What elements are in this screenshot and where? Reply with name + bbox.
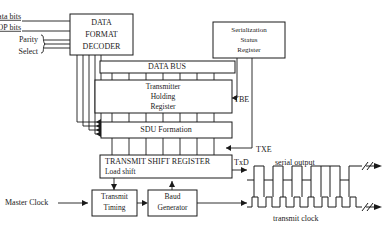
block-transmit-shift-register[interactable]: TRANSMIT SHIFT REGISTER Load shift bbox=[100, 155, 232, 178]
arrow-baud-tsr bbox=[169, 181, 175, 187]
transmit-clock-waveform bbox=[247, 197, 378, 211]
serial-output-trace bbox=[247, 166, 362, 180]
transmit-timing-line1: Transmit bbox=[101, 192, 129, 201]
label-stop-bits: #STOP bits bbox=[0, 23, 21, 32]
serial-output-waveform bbox=[247, 162, 378, 197]
block-data-bus[interactable]: DATA BUS bbox=[100, 61, 235, 73]
ssr-line1: Serialization bbox=[231, 26, 267, 34]
arrow-tsr-timing bbox=[111, 184, 117, 190]
block-serialization-status-register[interactable]: Serialization Status Register bbox=[213, 22, 285, 58]
arrow-txd bbox=[241, 167, 247, 173]
label-txd: TxD bbox=[234, 158, 249, 167]
transmit-timing-line2: Timing bbox=[104, 203, 126, 212]
block-transmitter-holding-register[interactable]: Transmitter Holding Register bbox=[95, 80, 232, 113]
transmit-clock-trace bbox=[247, 197, 362, 207]
thr-line1: Transmitter bbox=[146, 82, 181, 91]
label-data-bits: #Data bits bbox=[0, 12, 21, 21]
data-format-decoder-line2: FORMAT bbox=[85, 30, 118, 39]
label-select: Select bbox=[18, 47, 38, 56]
ssr-line2: Status bbox=[240, 36, 257, 44]
baud-generator-line1: Baud bbox=[165, 192, 181, 201]
arrow-serial-output-continue bbox=[374, 163, 382, 169]
data-format-decoder-line1: DATA bbox=[91, 18, 112, 27]
tsr-line1: TRANSMIT SHIFT REGISTER bbox=[105, 157, 211, 166]
block-sdu-formation[interactable]: SDU Formation bbox=[101, 122, 232, 138]
label-parity: Parity bbox=[19, 35, 38, 44]
thr-line3: Register bbox=[151, 102, 176, 111]
label-master-clock: Master Clock bbox=[5, 198, 48, 207]
label-tbe: TBE bbox=[234, 95, 249, 104]
diagram-canvas: DATA FORMAT DECODER Serialization Status… bbox=[0, 0, 384, 229]
label-txe: TXE bbox=[256, 145, 272, 154]
label-serial-output: serial output bbox=[275, 158, 316, 167]
arrow-txe bbox=[226, 145, 231, 151]
data-bus-label: DATA BUS bbox=[148, 62, 186, 71]
ssr-line3: Register bbox=[237, 46, 261, 54]
data-format-decoder-line3: DECODER bbox=[83, 42, 121, 51]
tsr-line2: Load shift bbox=[105, 167, 137, 176]
uart-transmitter-diagram: DATA FORMAT DECODER Serialization Status… bbox=[0, 0, 384, 229]
baud-generator-line2: Generator bbox=[158, 203, 188, 212]
label-transmit-clock: transmit clock bbox=[273, 214, 319, 223]
thr-line2: Holding bbox=[151, 92, 176, 101]
arrow-sdu-in-3 bbox=[96, 131, 101, 137]
parity-select-brace bbox=[41, 35, 45, 53]
block-data-format-decoder[interactable]: DATA FORMAT DECODER bbox=[70, 14, 133, 55]
arrow-timing-baud bbox=[142, 200, 148, 206]
arrow-transmit-clock-continue bbox=[374, 204, 382, 210]
arrow-clock-out bbox=[241, 200, 247, 206]
block-transmit-timing[interactable]: Transmit Timing bbox=[92, 190, 137, 216]
block-baud-generator[interactable]: Baud Generator bbox=[148, 190, 197, 216]
sdu-formation-label: SDU Formation bbox=[140, 125, 191, 134]
arrow-master-clock bbox=[82, 200, 88, 206]
